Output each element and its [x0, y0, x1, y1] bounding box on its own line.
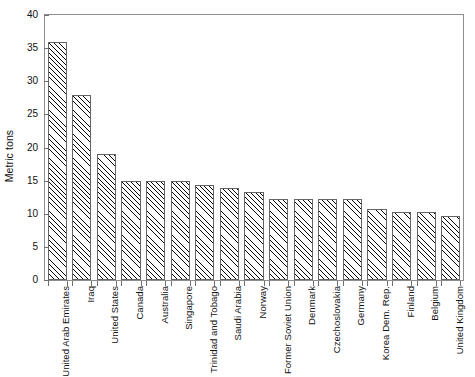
- x-axis-category-label: Belgium: [430, 286, 440, 321]
- x-axis-category-label: Saudi Arabia: [233, 286, 243, 340]
- x-axis-category-label: United Kingdom: [455, 286, 465, 354]
- bar: [343, 199, 362, 280]
- y-tick-label: 0: [0, 275, 38, 285]
- x-axis-category-label: United States: [110, 286, 120, 344]
- bar-slot: [294, 15, 313, 280]
- bar-slot: [220, 15, 239, 280]
- x-axis-category-label: Finland: [406, 286, 416, 318]
- x-axis-category-label: Trinidad and Tobago: [209, 286, 219, 373]
- x-axis-category-label: Canada: [135, 286, 145, 320]
- bar: [294, 199, 313, 280]
- bar-slot: [417, 15, 436, 280]
- bar: [72, 95, 91, 281]
- bar-slot: [146, 15, 165, 280]
- bar: [318, 199, 337, 280]
- bar-slot: [318, 15, 337, 280]
- x-axis-category-label: Germany: [356, 286, 366, 325]
- y-tick-label: 40: [0, 10, 38, 20]
- x-axis-category-label: Denmark: [307, 286, 317, 325]
- bar: [97, 154, 116, 280]
- y-tick-label: 15: [0, 176, 38, 186]
- y-tick-label: 25: [0, 109, 38, 119]
- bar-slot: [195, 15, 214, 280]
- bar: [417, 212, 436, 280]
- y-tick-label: 35: [0, 43, 38, 53]
- bar: [269, 199, 288, 280]
- bar: [244, 192, 263, 280]
- bar: [441, 216, 460, 280]
- y-tick-label: 5: [0, 242, 38, 252]
- bar-slot: [269, 15, 288, 280]
- y-tick-label: 10: [0, 209, 38, 219]
- bar: [367, 209, 386, 280]
- bars-layer: [45, 15, 463, 280]
- x-axis-category-label: United Arab Emirates: [61, 286, 71, 377]
- bar: [392, 212, 411, 280]
- bar-slot: [441, 15, 460, 280]
- bar-slot: [244, 15, 263, 280]
- x-axis-category-label: Norway: [258, 286, 268, 319]
- bar-slot: [48, 15, 67, 280]
- bar-slot: [121, 15, 140, 280]
- bar: [195, 185, 214, 280]
- bar: [121, 181, 140, 280]
- x-axis-category-label: Singapore: [184, 286, 194, 330]
- bar-slot: [392, 15, 411, 280]
- x-axis-category-label: Former Soviet Union: [283, 286, 293, 374]
- bar: [48, 42, 67, 281]
- bar: [171, 181, 190, 280]
- bar-slot: [343, 15, 362, 280]
- x-axis-labels: United Arab EmiratesIraqUnited StatesCan…: [45, 286, 463, 369]
- bar: [146, 181, 165, 280]
- x-axis-category-label: Korea Dem. Rep.: [381, 286, 391, 360]
- bar-slot: [72, 15, 91, 280]
- x-axis-category-label: Czechoslovakia: [332, 286, 342, 353]
- bar-slot: [97, 15, 116, 280]
- bar-slot: [171, 15, 190, 280]
- y-tick-label: 30: [0, 76, 38, 86]
- x-axis-category-label: Australia: [160, 286, 170, 323]
- y-tick-label: 20: [0, 143, 38, 153]
- x-axis-category-label: Iraq: [86, 286, 96, 303]
- bar: [220, 188, 239, 280]
- bar-slot: [367, 15, 386, 280]
